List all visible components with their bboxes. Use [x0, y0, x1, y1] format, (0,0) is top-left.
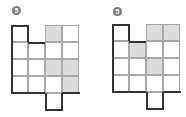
outline-edge	[128, 24, 130, 42]
shaded-cell	[163, 24, 180, 41]
grid-cell	[146, 92, 163, 109]
outline-edge	[112, 58, 114, 76]
figure-right: 5	[0, 0, 93, 117]
shaded-cell	[146, 24, 163, 41]
shaded-cell	[129, 41, 146, 58]
grid-cell	[112, 58, 129, 75]
outline-edge	[129, 91, 147, 93]
number-badge: 5	[113, 7, 122, 16]
outline-edge	[112, 41, 114, 59]
grid-cell	[146, 41, 163, 58]
outline-edge	[112, 91, 130, 93]
outline-edge	[129, 41, 147, 43]
outline-edge	[112, 24, 114, 42]
grid-cell	[112, 24, 129, 41]
outline-edge	[112, 75, 114, 93]
grid-cell	[129, 75, 146, 92]
outline-edge	[162, 92, 164, 110]
outline-edge	[163, 91, 181, 93]
grid-cell	[163, 41, 180, 58]
shaded-cell	[146, 58, 163, 75]
grid-cell	[146, 75, 163, 92]
grid-cell	[129, 58, 146, 75]
grid-cell	[112, 75, 129, 92]
grid-cell	[163, 58, 180, 75]
outline-edge	[146, 92, 148, 110]
grid-cell	[112, 41, 129, 58]
grid-cell	[163, 75, 180, 92]
